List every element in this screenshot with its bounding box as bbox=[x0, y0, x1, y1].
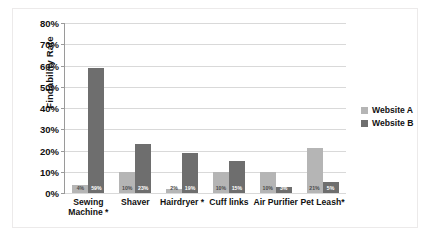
bar-group-bars bbox=[159, 23, 206, 193]
y-axis-tick-label: 70% bbox=[40, 39, 59, 50]
bar-group: 4%59% bbox=[65, 23, 112, 193]
x-axis-category-label: Cuff links bbox=[205, 197, 252, 217]
x-axis-category-label: Hairdryer * bbox=[159, 197, 206, 217]
bar-group: 10%3% bbox=[252, 23, 299, 193]
y-axis-tick-label: 20% bbox=[40, 145, 59, 156]
bar-website-b[interactable] bbox=[276, 187, 292, 193]
bar-group-bars bbox=[252, 23, 299, 193]
legend-item-website-a[interactable]: Website A bbox=[361, 105, 413, 115]
bar-group-bars bbox=[112, 23, 159, 193]
bar-website-a[interactable] bbox=[119, 172, 135, 193]
gridline bbox=[65, 193, 346, 194]
y-axis-tick-label: 10% bbox=[40, 166, 59, 177]
legend-swatch-icon bbox=[361, 120, 368, 127]
bar-website-b[interactable] bbox=[323, 182, 339, 193]
x-axis-category-labels: Sewing Machine *ShaverHairdryer *Cuff li… bbox=[65, 197, 346, 217]
bar-group-bars bbox=[65, 23, 112, 193]
legend-swatch-icon bbox=[361, 107, 368, 114]
bar-group: 10%15% bbox=[205, 23, 252, 193]
bar-website-b[interactable] bbox=[135, 144, 151, 193]
legend-item-website-b[interactable]: Website B bbox=[361, 118, 413, 128]
bar-website-a[interactable] bbox=[260, 172, 276, 193]
bar-website-a[interactable] bbox=[72, 185, 88, 194]
y-axis-tick-label: 50% bbox=[40, 81, 59, 92]
bar-group: 10%23% bbox=[112, 23, 159, 193]
y-axis-tick-label: 0% bbox=[45, 188, 59, 199]
y-axis-tick-label: 80% bbox=[40, 18, 59, 29]
y-axis-tick-label: 60% bbox=[40, 60, 59, 71]
bar-website-b[interactable] bbox=[229, 161, 245, 193]
y-axis-tick-label: 30% bbox=[40, 124, 59, 135]
bar-groups: 4%59%10%23%2%19%10%15%10%3%21%5% bbox=[65, 23, 346, 193]
x-axis-category-label: Air Purifier bbox=[252, 197, 299, 217]
legend-label: Website B bbox=[372, 118, 413, 128]
y-axis-tick-label: 40% bbox=[40, 103, 59, 114]
bar-website-a[interactable] bbox=[307, 148, 323, 193]
bar-group: 21%5% bbox=[299, 23, 346, 193]
legend-label: Website A bbox=[372, 105, 413, 115]
bar-website-a[interactable] bbox=[213, 172, 229, 193]
bar-group: 2%19% bbox=[159, 23, 206, 193]
chart-container: Findability Rate 80%70%60%50%40%30%20%10… bbox=[12, 8, 418, 228]
x-axis-category-label: Pet Leash* bbox=[299, 197, 346, 217]
bar-website-a[interactable] bbox=[166, 189, 182, 193]
x-axis-category-label: Sewing Machine * bbox=[65, 197, 112, 217]
bar-website-b[interactable] bbox=[182, 153, 198, 193]
y-axis-tick-mark bbox=[61, 193, 65, 194]
bar-group-bars bbox=[299, 23, 346, 193]
legend: Website AWebsite B bbox=[361, 105, 413, 131]
bar-website-b[interactable] bbox=[88, 68, 104, 193]
bar-group-bars bbox=[205, 23, 252, 193]
x-axis-category-label: Shaver bbox=[112, 197, 159, 217]
plot-area: 80%70%60%50%40%30%20%10%0% 4%59%10%23%2%… bbox=[65, 23, 346, 193]
